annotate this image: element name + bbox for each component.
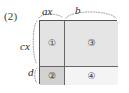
figure-number-label: (2) (4, 10, 17, 22)
region-cell-4: ④ (65, 67, 118, 85)
region-number-1: ① (48, 39, 56, 48)
region-cell-3: ③ (65, 21, 118, 67)
dimension-label-ax: ax (42, 5, 52, 17)
region-number-2: ② (48, 72, 56, 81)
region-number-3: ③ (87, 39, 95, 48)
region-cell-1: ① (40, 21, 65, 67)
region-cell-2: ② (40, 67, 65, 85)
brace-b-icon (66, 12, 116, 18)
dimension-label-cx: cx (20, 40, 30, 52)
region-number-4: ④ (87, 72, 95, 81)
dimension-label-b: b (75, 4, 81, 16)
area-model-rectangle: ① ③ ② ④ (39, 20, 117, 84)
figure-container: (2) ax b cx d ① ③ ② ④ (0, 0, 129, 93)
brace-cx-icon (33, 21, 37, 64)
dimension-label-d: d (28, 66, 34, 78)
brace-d-icon (35, 68, 37, 83)
